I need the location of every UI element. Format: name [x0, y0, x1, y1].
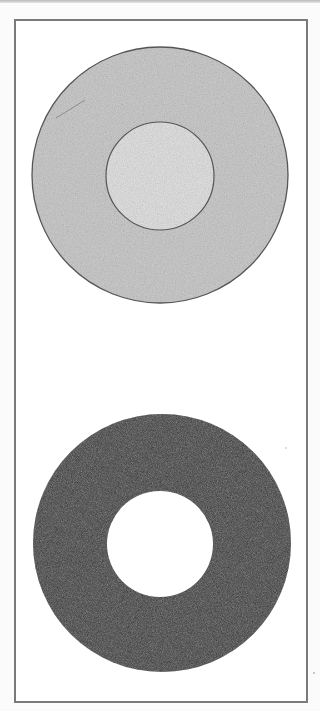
scan-speck: [313, 672, 315, 674]
illustration: [0, 0, 320, 711]
top-shaded-disk: [32, 47, 288, 303]
bottom-dark-ring: [33, 414, 291, 672]
scan-speck: [285, 447, 287, 449]
ring-hole: [107, 491, 213, 597]
